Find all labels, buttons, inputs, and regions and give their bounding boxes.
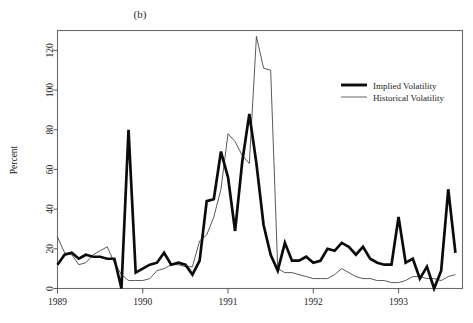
y-tick-label: 120 [45, 43, 55, 58]
y-tick-label: 100 [45, 83, 55, 98]
x-tick-label: 1989 [48, 297, 67, 307]
x-tick-label: 1992 [304, 297, 323, 307]
legend-label-historical-volatility: Historical Volatility [373, 93, 444, 103]
y-tick-label: 40 [45, 204, 55, 214]
y-tick-label: 60 [45, 164, 55, 174]
y-tick-label: 0 [45, 286, 55, 291]
x-tick-label: 1991 [219, 297, 238, 307]
y-tick-label: 80 [45, 125, 55, 135]
volatility-chart-figure: (b) 020406080100120 19891990199119921993… [0, 0, 473, 323]
x-tick-label: 1993 [389, 297, 408, 307]
y-axis-title: Percent [9, 145, 19, 174]
x-tick-label: 1990 [133, 297, 152, 307]
y-tick-label: 20 [45, 244, 55, 254]
panel-title: (b) [134, 8, 147, 21]
legend-label-implied-volatility: Implied Volatility [373, 81, 437, 91]
figure-background [0, 0, 473, 323]
